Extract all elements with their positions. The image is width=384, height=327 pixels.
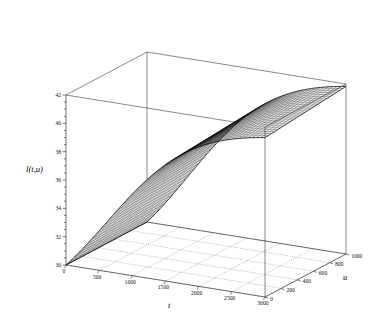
tick-label: 1000 — [125, 279, 136, 285]
u-axis-title: u — [343, 273, 347, 282]
tick-label: 42 — [55, 92, 61, 98]
tick-label: 1500 — [158, 284, 169, 290]
tick-label: 800 — [335, 261, 344, 267]
tick-label: 40 — [55, 120, 61, 126]
tick-label: 36 — [55, 177, 61, 183]
tick-label: 34 — [55, 205, 61, 211]
tick-label: 500 — [93, 274, 102, 280]
tick-label: 0 — [63, 268, 66, 274]
tick-label: 30 — [55, 262, 61, 268]
tick-label: 0 — [270, 296, 273, 302]
tick-label: 2500 — [224, 295, 235, 301]
tick-label: 1000 — [351, 253, 362, 259]
tick-label: 32 — [55, 234, 61, 240]
tick-label: 400 — [303, 278, 312, 284]
tick-label: 3000 — [257, 300, 268, 306]
tick-label: 2000 — [191, 290, 202, 296]
tick-label: 600 — [319, 270, 328, 276]
tick-label: 38 — [55, 149, 61, 155]
surface-plot-3d: 3032343638404205001000150020002500300002… — [0, 0, 384, 327]
tick-label: 200 — [286, 287, 295, 293]
z-axis-title: l(t,u) — [26, 164, 43, 174]
